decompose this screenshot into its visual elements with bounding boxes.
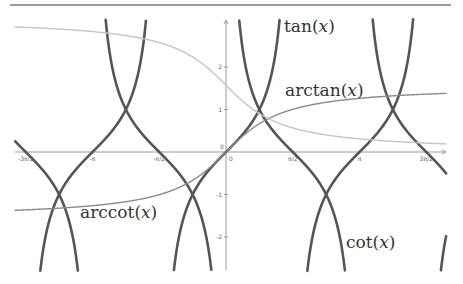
x-tick-label: π [358,155,362,162]
label-tan: tan(x) [284,16,335,36]
x-tick-label: -π [90,155,96,162]
label-cot: cot(x) [346,232,395,252]
origin-label: 0 [220,143,224,150]
x-tick-label: 0 [229,155,233,162]
y-tick-label: 2 [218,63,222,70]
y-tick-label: -2 [216,233,222,240]
label-arctan: arctan(x) [285,80,364,100]
label-arccot: arccot(x) [80,202,157,222]
y-tick-label: 1 [218,106,222,113]
y-tick-label: -1 [216,191,222,198]
